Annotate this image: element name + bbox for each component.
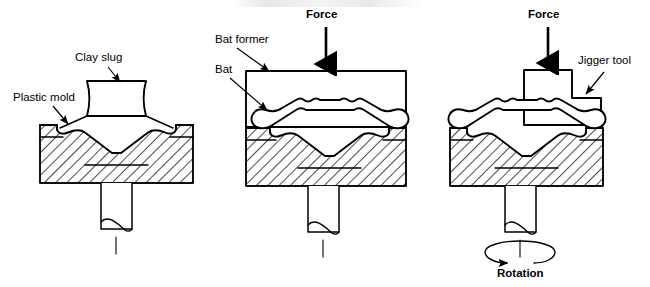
plastic-mold-leader	[53, 106, 68, 124]
clay-slug-label: Clay slug	[75, 51, 122, 63]
spindle-shaft-2	[308, 186, 339, 257]
plastic-mold-shape-2	[246, 128, 406, 186]
diagram-canvas: Clay slug Plastic mold	[0, 0, 650, 287]
force-label-3: Force	[528, 8, 559, 20]
jiggering-diagram: Clay slug Plastic mold	[0, 0, 650, 287]
rotation-label: Rotation	[497, 267, 544, 279]
force-label-2: Force	[306, 8, 337, 20]
bat-label: Bat	[215, 63, 233, 75]
panel-3-group: Force Jigger tool Rotation	[448, 8, 631, 279]
jigger-tool-leader	[586, 72, 604, 94]
panel-2-group: Force Bat former Bat	[215, 8, 409, 257]
clay-slug-shape	[87, 81, 146, 116]
clay-slug-leader	[108, 67, 120, 82]
bat-former-leader	[237, 48, 269, 71]
jigger-tool-label: Jigger tool	[578, 54, 631, 66]
plastic-mold-label: Plastic mold	[13, 91, 75, 103]
panel-1-group: Clay slug Plastic mold	[13, 51, 193, 254]
bat-former-label: Bat former	[215, 33, 269, 45]
spindle-shaft	[101, 183, 132, 254]
spindle-shaft-3	[505, 186, 536, 257]
plastic-mold-shape-3	[450, 128, 603, 186]
